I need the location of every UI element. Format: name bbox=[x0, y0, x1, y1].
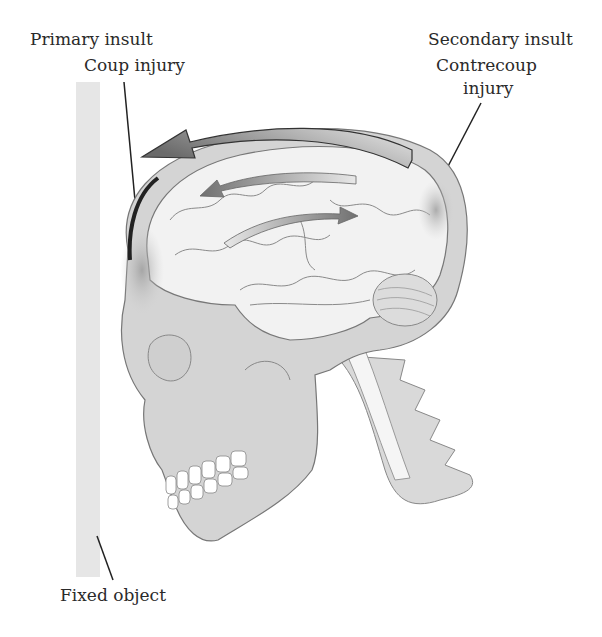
contrecoup-bruise bbox=[418, 180, 454, 240]
coup-bruise bbox=[120, 225, 164, 315]
contrecoup-label-line1: Contrecoup bbox=[436, 55, 537, 75]
coup-injury-label: Coup injury bbox=[84, 55, 185, 75]
fixed-object-label: Fixed object bbox=[60, 585, 166, 605]
primary-insult-label: Primary insult bbox=[30, 29, 153, 49]
fixed-object bbox=[76, 82, 100, 577]
secondary-insult-label: Secondary insult bbox=[428, 29, 573, 49]
contrecoup-label-line2: injury bbox=[463, 78, 513, 98]
cervical-spine bbox=[335, 355, 473, 504]
eye-orbit bbox=[148, 335, 191, 381]
cerebellum bbox=[373, 274, 437, 326]
